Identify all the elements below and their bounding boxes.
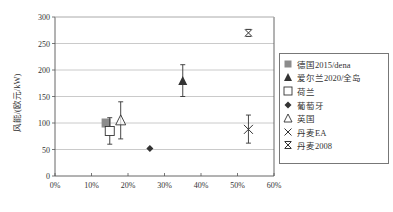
x-tick-label: 10% — [84, 181, 99, 190]
y-axis-label: 风能/(欧元/kW) — [10, 63, 22, 143]
y-tick-label: 150 — [38, 93, 50, 102]
legend-item: 德国2015/dena — [283, 57, 388, 71]
legend-item: 丹麦2008 — [283, 139, 388, 153]
x-cross-icon — [283, 127, 293, 137]
data-points — [102, 29, 253, 152]
legend-item: 丹麦EA — [283, 125, 388, 139]
open-square-icon — [283, 86, 293, 96]
data-point — [116, 102, 126, 139]
legend-item: 荷兰 — [283, 84, 388, 98]
asterisk-x-icon — [283, 140, 293, 150]
x-tick-label: 20% — [121, 181, 136, 190]
data-point — [244, 115, 253, 143]
filled-square-icon — [283, 59, 293, 69]
x-tick-label: 40% — [194, 181, 209, 190]
y-tick-label: 200 — [38, 66, 50, 75]
x-tick-label: 50% — [230, 181, 245, 190]
x-tick-label: 60% — [267, 181, 282, 190]
y-tick-label: 300 — [38, 13, 50, 22]
x-tick-label: 0% — [50, 181, 61, 190]
legend-item: 葡萄牙 — [283, 98, 388, 112]
filled-triangle-icon — [283, 72, 293, 82]
gridlines — [55, 17, 274, 150]
x-tick-label: 30% — [157, 181, 172, 190]
legend: 德国2015/dena 爱尔兰2020/全岛 荷兰 葡萄牙 英国 丹麦EA 丹麦… — [279, 53, 389, 164]
axes: 0501001502002503000%10%20%30%40%50%60% — [38, 13, 282, 190]
y-tick-label: 50 — [42, 146, 50, 155]
data-point — [178, 65, 187, 97]
y-tick-label: 250 — [38, 40, 50, 49]
legend-item: 爱尔兰2020/全岛 — [283, 71, 388, 85]
data-point — [245, 29, 252, 36]
y-tick-label: 0 — [46, 172, 50, 181]
legend-item: 英国 — [283, 111, 388, 125]
data-point — [146, 145, 153, 152]
filled-diamond-icon — [283, 100, 293, 110]
y-tick-label: 100 — [38, 119, 50, 128]
open-triangle-icon — [283, 113, 293, 123]
